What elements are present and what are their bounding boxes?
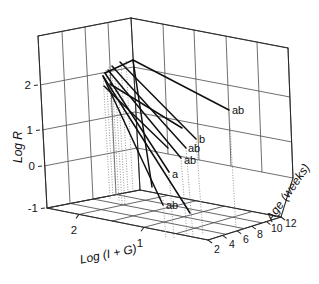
x-tick-label-1: 1 (137, 237, 143, 249)
z-tick-label-3: 8 (257, 228, 263, 240)
data-line-10 (110, 84, 182, 128)
z-axis-title: Age (weeks) (262, 161, 312, 224)
y-tick-label-0: 2 (25, 79, 31, 91)
z-tick-label-4: 10 (271, 222, 283, 234)
z-tick-label-5: 12 (285, 217, 297, 229)
y-axis-title: Log R (11, 131, 25, 163)
data-line-1 (133, 60, 229, 110)
series-label-3: ab (188, 142, 200, 154)
series-label-5: a (172, 168, 179, 180)
left-wall-grid (38, 18, 140, 208)
y-tick-label-2: 0 (29, 160, 35, 172)
series-label-1: ab (232, 104, 244, 116)
x-tick-label-0: 2 (71, 224, 77, 236)
y-tick-label-1: 1 (27, 124, 33, 136)
y-axis-line (38, 36, 47, 208)
y-tick-label-3: -1 (28, 202, 38, 214)
drop-line-end-1 (229, 110, 236, 228)
three-d-line-chart: 2 1 0 -1 Log R 2 1 Log (I + G) 2 4 6 8 1… (0, 0, 319, 284)
data-line-4 (108, 70, 181, 158)
x-axis-title: Log (I + G) (79, 241, 138, 266)
y-axis-ticks: 2 1 0 -1 (25, 79, 45, 214)
series-label-6: ab (166, 199, 178, 211)
z-tick-label-2: 6 (243, 233, 249, 245)
z-tick-label-1: 4 (229, 238, 235, 250)
series-label-4: ab (184, 154, 196, 166)
z-tick-label-0: 2 (214, 243, 220, 255)
